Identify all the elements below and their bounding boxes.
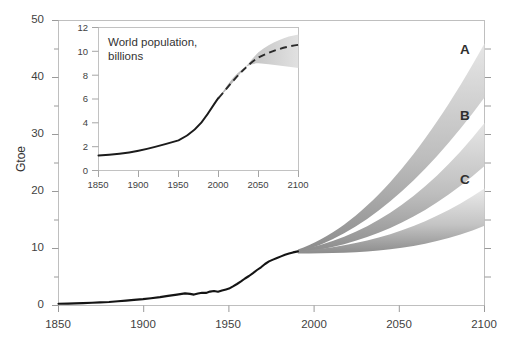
scenario-label-c: C	[460, 172, 470, 187]
inset-x-tick-label-2050: 2050	[241, 179, 275, 190]
main-y-tick-label-10: 10	[10, 241, 44, 253]
inset-y-tick-label-4: 4	[66, 117, 88, 128]
inset-y-tick-label-2: 2	[66, 141, 88, 152]
main-y-tick-label-50: 50	[10, 13, 44, 25]
main-x-tick-label-2000: 2000	[291, 318, 337, 330]
inset-y-tick-label-6: 6	[66, 93, 88, 104]
inset-y-tick-label-0: 0	[66, 165, 88, 176]
main-y-ticks	[52, 21, 59, 306]
inset-x-tick-label-1900: 1900	[121, 179, 155, 190]
inset-x-tick-label-2000: 2000	[201, 179, 235, 190]
main-y-axis-title: Gtoe	[14, 129, 28, 189]
scenario-label-b: B	[460, 108, 470, 123]
inset-y-tick-label-12: 12	[66, 22, 88, 33]
main-x-tick-label-2100: 2100	[461, 318, 507, 330]
main-x-tick-label-1950: 1950	[205, 318, 251, 330]
main-x-tick-label-1900: 1900	[120, 318, 166, 330]
main-x-ticks	[59, 306, 485, 313]
main-y-tick-label-40: 40	[10, 70, 44, 82]
main-right-ticks	[485, 49, 492, 277]
inset-y-tick-label-8: 8	[66, 70, 88, 81]
inset-title-line-1: World population,	[108, 36, 197, 48]
inset-title-line-2: billions	[108, 50, 143, 62]
inset-x-tick-label-1850: 1850	[81, 179, 115, 190]
scenario-label-a: A	[460, 42, 470, 57]
energy-scenarios-figure: 50 40 30 20 10 0 Gtoe 1850 1900 1950 200…	[0, 0, 519, 348]
main-y-tick-label-0: 0	[10, 298, 44, 310]
inset-y-tick-label-10: 10	[66, 46, 88, 57]
inset-x-tick-label-1950: 1950	[161, 179, 195, 190]
main-x-tick-label-2050: 2050	[376, 318, 422, 330]
inset-x-tick-label-2100: 2100	[281, 179, 315, 190]
main-x-tick-label-1850: 1850	[35, 318, 81, 330]
